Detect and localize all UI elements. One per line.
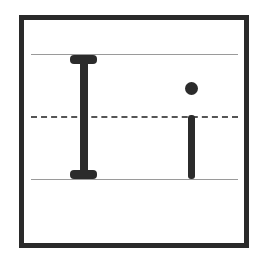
uppercase-I-stem <box>80 60 88 174</box>
lowercase-i-dot <box>185 82 198 95</box>
baseline-guide-line <box>31 179 238 180</box>
worksheet-frame <box>19 15 249 248</box>
lowercase-i-stem <box>188 115 195 179</box>
top-guide-line <box>31 54 238 55</box>
midline-dashed-guide <box>31 116 238 118</box>
uppercase-I-bottom-serif <box>70 170 97 179</box>
